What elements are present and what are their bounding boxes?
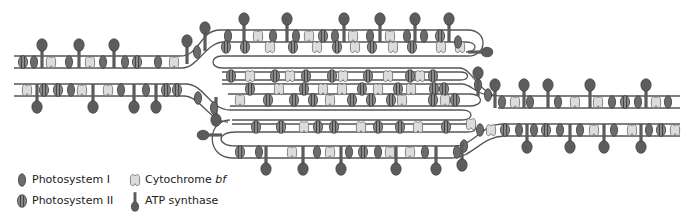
cytochrome-bf <box>415 71 424 82</box>
photosystem-ii <box>132 56 141 69</box>
photosystem-i <box>554 96 561 109</box>
photosystem-i <box>403 30 410 43</box>
atp-synthase <box>151 84 161 113</box>
atp-synthase <box>129 84 139 113</box>
cytochrome-bf <box>337 84 346 95</box>
photosystem-ii <box>18 56 27 69</box>
photosystem-i <box>117 84 124 97</box>
cytochrome-bf <box>312 42 321 53</box>
cytochrome-bf <box>589 125 598 136</box>
photosystem-i <box>255 146 262 159</box>
atp-synthase <box>375 13 385 42</box>
photosystem-ii <box>289 94 298 107</box>
photosystem-ii <box>435 30 444 43</box>
cytochrome-bf <box>356 122 365 133</box>
atp-synthase <box>336 146 346 175</box>
photosystem-ii <box>367 41 376 54</box>
photosystem-i <box>313 146 320 159</box>
cytochrome-bf <box>235 95 244 106</box>
atp-synthase <box>339 13 349 42</box>
photosystem-ii <box>161 84 170 97</box>
legend-label: ATP synthase <box>145 194 218 207</box>
cytochrome-bf <box>383 71 392 82</box>
photosystem-i <box>154 56 161 69</box>
legend-item-photosystem-ii: Photosystem II <box>32 194 113 207</box>
atp-synthase-icon <box>131 192 139 211</box>
photosystem-ii <box>393 83 402 96</box>
cytochrome-bf <box>350 42 359 53</box>
photosystem-ii <box>405 70 414 83</box>
photosystem-ii <box>263 94 272 107</box>
cytochrome-bf <box>373 84 382 95</box>
photosystem-ii <box>366 94 375 107</box>
cytochrome-bf-icon <box>130 175 139 186</box>
photosystem-ii <box>407 41 416 54</box>
photosystem-i <box>515 124 522 137</box>
legend-item-cytochrome-bf: Cytochrome bf <box>145 173 226 186</box>
cytochrome-bf <box>570 97 579 108</box>
photosystem-ii <box>428 70 437 83</box>
legend-item-photosystem-i: Photosystem I <box>32 173 110 186</box>
photosystem-i <box>608 96 615 109</box>
photosystem-ii <box>308 94 317 107</box>
photosystem-ii-icon <box>17 195 26 208</box>
atp-synthase <box>599 124 609 153</box>
photosystem-ii <box>240 41 249 54</box>
cytochrome-bf <box>103 85 112 96</box>
photosystem-ii <box>53 84 62 97</box>
cytochrome-bf <box>287 147 296 158</box>
atp-synthase <box>109 39 119 68</box>
cytochrome-bf <box>245 71 254 82</box>
atp-synthase <box>473 67 483 96</box>
cytochrome-bf <box>85 57 94 68</box>
photosystem-i <box>421 146 428 159</box>
cytochrome-bf <box>299 122 308 133</box>
photosystem-ii <box>373 121 382 134</box>
photosystem-ii <box>500 124 509 137</box>
cytochrome-bf <box>436 42 445 53</box>
photosystem-ii <box>299 83 308 96</box>
photosystem-ii <box>327 70 336 83</box>
photosystem-i <box>610 124 617 137</box>
photosystem-ii <box>313 121 322 134</box>
cytochrome-bf <box>338 71 347 82</box>
atp-synthase <box>239 13 249 42</box>
photosystem-i <box>65 56 72 69</box>
photosystem-i <box>194 92 201 105</box>
cytochrome-bf <box>253 31 262 42</box>
cytochrome-bf <box>325 147 334 158</box>
atp-synthase <box>37 39 47 68</box>
cytochrome-bf <box>169 57 178 68</box>
photosystem-ii <box>270 70 279 83</box>
cytochrome-bf <box>486 125 495 136</box>
atp-synthase <box>182 35 192 64</box>
photosystem-ii <box>620 96 629 109</box>
atp-synthase <box>197 130 222 140</box>
atp-synthase <box>636 124 646 153</box>
photosystem-ii <box>329 121 338 134</box>
cytochrome-bf <box>265 42 274 53</box>
photosystem-i <box>664 96 671 109</box>
photosystem-i <box>634 96 641 109</box>
cytochrome-bf <box>440 95 449 106</box>
atp-synthase <box>88 84 98 113</box>
legend-label: Photosystem I <box>32 173 110 186</box>
photosystem-ii <box>245 83 254 96</box>
cytochrome-bf <box>385 31 394 42</box>
cytochrome-bf <box>285 71 294 82</box>
photosystem-ii <box>386 94 395 107</box>
cytochrome-bf <box>46 57 55 68</box>
cytochrome-bf <box>304 31 313 42</box>
photosystem-i <box>420 30 427 43</box>
legend-item-atp-synthase: ATP synthase <box>145 194 218 207</box>
cytochrome-bf <box>274 84 283 95</box>
photosystem-i <box>269 30 276 43</box>
cytochrome-bf <box>651 97 660 108</box>
photosystem-i-icon <box>18 174 25 187</box>
cytochrome-bf <box>348 31 357 42</box>
photosystem-ii <box>541 124 550 137</box>
photosystem-ii <box>276 121 285 134</box>
photosystem-ii <box>439 83 448 96</box>
cytochrome-bf <box>466 119 475 130</box>
photosystem-ii <box>441 121 450 134</box>
